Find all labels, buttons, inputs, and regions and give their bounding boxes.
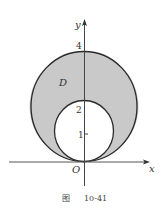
caption-prefix: 图	[62, 194, 70, 203]
y-axis-label: y	[74, 19, 81, 30]
caption-number: 10-41	[84, 194, 107, 203]
y-tick-label-1: 1	[78, 130, 84, 140]
figure-diagram: y x 4 2 1 O D 图 10-41	[0, 0, 166, 212]
x-axis-label: x	[149, 163, 155, 174]
origin-label: O	[72, 164, 80, 175]
y-tick-label-4: 4	[76, 41, 82, 51]
y-tick-label-2: 2	[76, 105, 82, 115]
region-label-d: D	[58, 77, 67, 88]
